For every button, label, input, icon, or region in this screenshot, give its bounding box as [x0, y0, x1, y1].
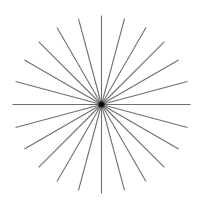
ray-line [102, 19, 125, 105]
ray-line [16, 105, 102, 128]
ray-line [102, 81, 188, 104]
ray-line [16, 81, 102, 104]
ray-line [78, 19, 101, 105]
radial-starburst-diagram [0, 0, 209, 204]
ray-line [78, 105, 101, 191]
center-dot [98, 101, 105, 108]
ray-line [102, 105, 188, 128]
ray-line [102, 105, 125, 191]
